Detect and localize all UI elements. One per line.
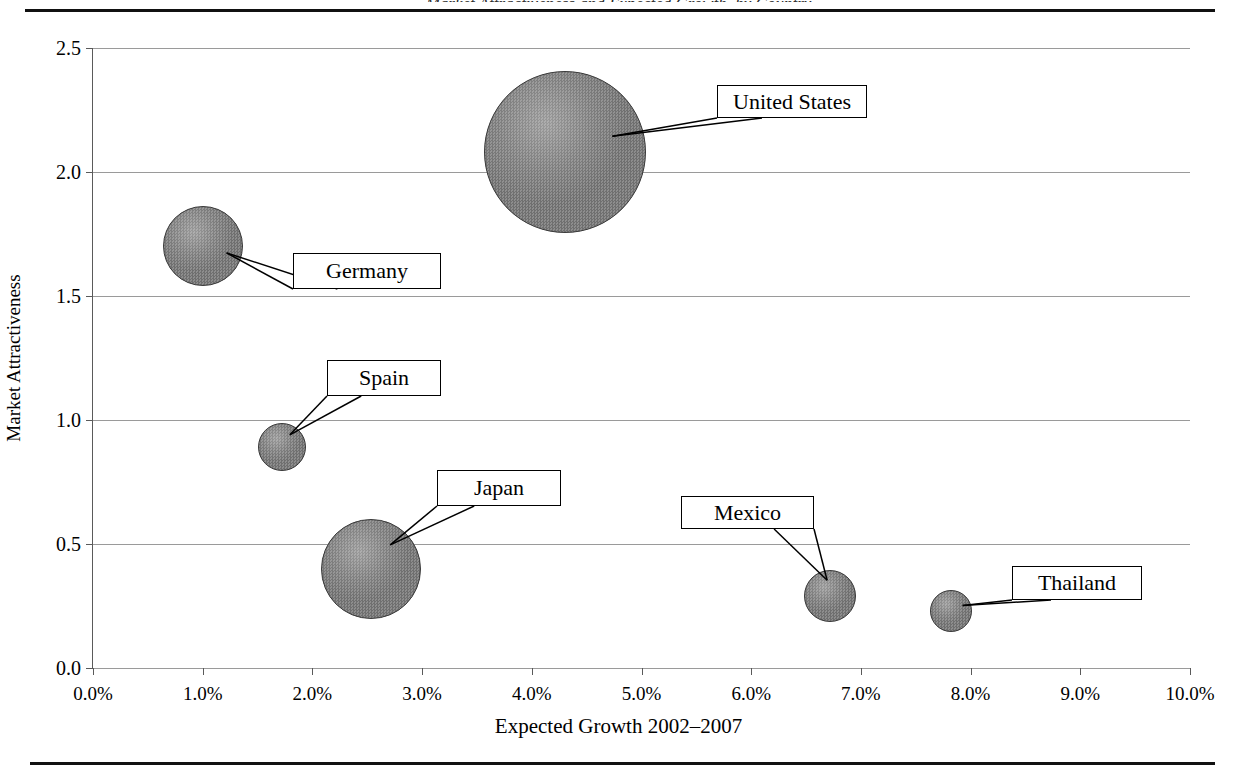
x-tick-label: 10.0% — [1165, 684, 1214, 703]
x-axis-title: Expected Growth 2002–2007 — [0, 714, 1237, 739]
x-tick-mark — [642, 668, 643, 675]
x-tick-label: 7.0% — [841, 684, 881, 703]
bubble-united-states[interactable] — [484, 71, 646, 233]
callout-spain[interactable]: Spain — [327, 360, 441, 396]
bubble-mexico[interactable] — [804, 570, 856, 622]
x-tick-label: 6.0% — [731, 684, 771, 703]
bubble-chart-figure: 0.00.51.01.52.02.5 0.0%1.0%2.0%3.0%4.0%5… — [0, 0, 1237, 779]
x-tick-mark — [971, 668, 972, 675]
callout-mexico[interactable]: Mexico — [681, 496, 814, 529]
bubble-thailand[interactable] — [930, 590, 972, 632]
bubble-spain[interactable] — [258, 423, 306, 471]
gridline-y — [93, 296, 1190, 297]
x-tick-label: 1.0% — [183, 684, 223, 703]
x-tick-label: 4.0% — [512, 684, 552, 703]
gridline-y — [93, 544, 1190, 545]
x-tick-mark — [312, 668, 313, 675]
x-tick-label: 9.0% — [1061, 684, 1101, 703]
x-tick-label: 0.0% — [73, 684, 113, 703]
x-tick-label: 8.0% — [951, 684, 991, 703]
y-tick-label: 1.5 — [56, 286, 81, 306]
callout-japan[interactable]: Japan — [437, 470, 561, 506]
y-axis-title: Market Attractiveness — [3, 274, 25, 441]
y-tick-mark — [86, 296, 93, 297]
y-axis-line — [92, 48, 93, 669]
y-tick-mark — [86, 172, 93, 173]
x-tick-mark — [93, 668, 94, 675]
y-tick-mark — [86, 420, 93, 421]
x-tick-mark — [1080, 668, 1081, 675]
y-tick-label: 1.0 — [56, 410, 81, 430]
y-tick-label: 2.0 — [56, 162, 81, 182]
x-tick-label: 2.0% — [293, 684, 333, 703]
y-tick-mark — [86, 48, 93, 49]
gridline-y — [93, 48, 1190, 49]
callout-thailand[interactable]: Thailand — [1012, 566, 1142, 600]
bubble-germany[interactable] — [163, 206, 243, 286]
callout-germany[interactable]: Germany — [293, 253, 441, 289]
x-tick-mark — [422, 668, 423, 675]
x-tick-mark — [532, 668, 533, 675]
x-tick-label: 5.0% — [622, 684, 662, 703]
y-tick-label: 0.5 — [56, 534, 81, 554]
x-tick-mark — [203, 668, 204, 675]
bottom-horizontal-rule — [30, 762, 1215, 765]
gridline-y — [93, 420, 1190, 421]
x-tick-mark — [861, 668, 862, 675]
y-tick-label: 0.0 — [56, 658, 81, 678]
y-tick-mark — [86, 544, 93, 545]
x-tick-mark — [1190, 668, 1191, 675]
x-tick-label: 3.0% — [402, 684, 442, 703]
y-tick-label: 2.5 — [56, 38, 81, 58]
y-tick-mark — [86, 668, 93, 669]
x-tick-mark — [751, 668, 752, 675]
bubble-japan[interactable] — [321, 519, 421, 619]
callout-united-states[interactable]: United States — [717, 85, 867, 118]
